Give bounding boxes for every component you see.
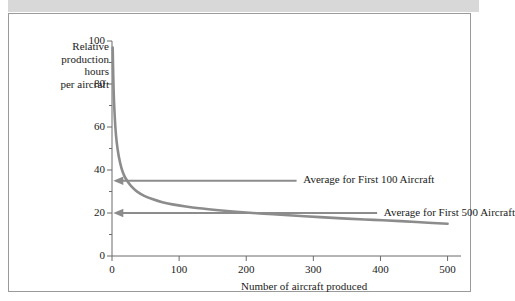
chart-series	[113, 47, 448, 223]
page-left-margin	[0, 0, 8, 301]
x-tick-label: 300	[298, 263, 328, 275]
x-tick-label: 200	[231, 263, 261, 275]
x-axis-label: Number of aircraft produced	[241, 280, 367, 292]
y-tick-label: 0	[79, 249, 105, 261]
x-tick-label: 100	[164, 263, 194, 275]
annotation-label: Average for First 500 Aircraft	[384, 206, 515, 218]
page-top-band	[0, 0, 479, 12]
x-tick-label: 0	[97, 263, 127, 275]
y-tick-label: 20	[79, 206, 105, 218]
y-tick-label: 80	[79, 77, 105, 89]
x-tick-label: 500	[433, 263, 463, 275]
annotation-arrow-head	[113, 209, 123, 217]
annotation-arrow-head	[113, 177, 123, 185]
chart-axes	[107, 41, 461, 261]
x-tick-label: 400	[365, 263, 395, 275]
annotation-label: Average for First 100 Aircraft	[303, 173, 434, 185]
y-tick-label: 100	[79, 34, 105, 46]
y-axis-label-line-2: production	[27, 53, 109, 66]
y-axis-label-line-3: hours	[27, 65, 109, 78]
series-line	[113, 47, 448, 223]
y-tick-label: 60	[79, 120, 105, 132]
chart-figure-frame: Relative production hours per aircraft N…	[8, 13, 471, 292]
y-tick-label: 40	[79, 163, 105, 175]
